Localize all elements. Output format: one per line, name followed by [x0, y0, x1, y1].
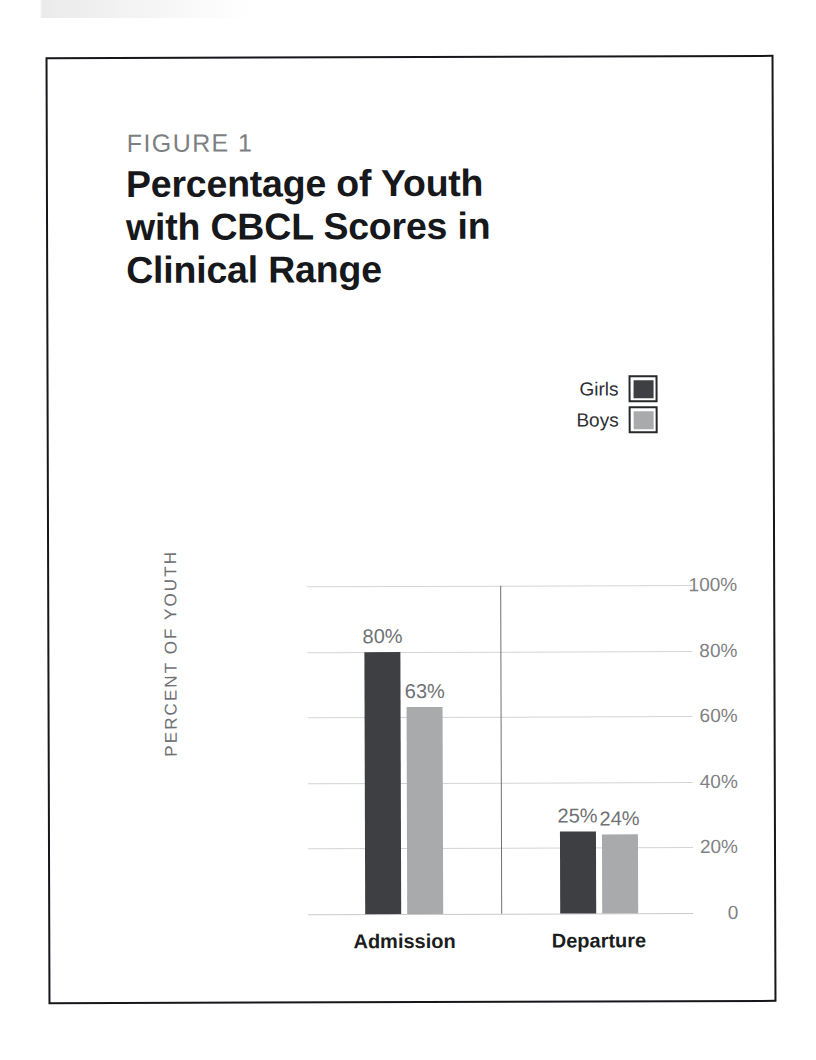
legend-label-girls: Girls [579, 378, 618, 400]
bar-chart: PERCENT OF YOUTH 100%80%60%40%20%0 80%63… [177, 577, 738, 979]
figure-frame: FIGURE 1 Percentage of Youth with CBCL S… [46, 55, 777, 1004]
legend-item-girls: Girls [576, 373, 657, 404]
legend-swatch-boys [629, 406, 658, 433]
bar-departure-boys: 24% [602, 835, 638, 914]
bar-admission-boys: 63% [407, 707, 444, 914]
legend-swatch-girls [629, 375, 658, 402]
bar-value-label: 80% [363, 625, 403, 648]
legend-item-boys: Boys [576, 404, 657, 435]
y-axis-title: PERCENT OF YOUTH [161, 550, 182, 757]
figure-title: Percentage of Youth with CBCL Scores in … [126, 162, 546, 292]
chart-legend: Girls Boys [576, 373, 657, 435]
bar-value-label: 63% [405, 680, 445, 703]
bar-admission-girls: 80% [365, 652, 402, 915]
page-scan-artifact [0, 0, 816, 18]
bar-value-label: 25% [558, 804, 598, 827]
bar-value-label: 24% [600, 808, 640, 831]
figure-number-label: FIGURE 1 [127, 128, 254, 157]
legend-label-boys: Boys [576, 409, 618, 431]
x-label-departure: Departure [552, 929, 647, 952]
group-divider-line [501, 586, 503, 914]
bar-departure-girls: 25% [560, 831, 596, 913]
plot-area: 80%63%25%24% [307, 585, 693, 914]
y-axis-tick-labels: 100%80%60%40%20%0 [177, 577, 737, 579]
x-label-admission: Admission [353, 930, 455, 953]
